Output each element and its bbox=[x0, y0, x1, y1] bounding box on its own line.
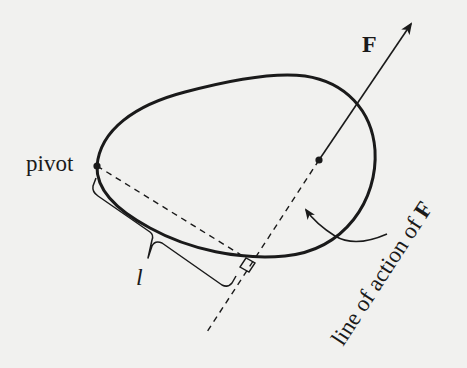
lever-arm-brace bbox=[93, 178, 236, 286]
pivot-dot bbox=[93, 162, 100, 169]
lever-arm-label: l bbox=[136, 264, 143, 290]
pivot-label: pivot bbox=[26, 151, 74, 176]
application-point-dot bbox=[315, 156, 322, 163]
torque-diagram: pivot F l line of action of F bbox=[0, 0, 467, 368]
force-label: F bbox=[362, 31, 377, 57]
line-of-action-dashed bbox=[205, 160, 319, 335]
perpendicular-dashed-line bbox=[97, 166, 246, 258]
line-of-action-label: line of action of F bbox=[326, 197, 437, 350]
rigid-body-outline bbox=[97, 75, 375, 257]
line-of-action-text: line of action of bbox=[326, 209, 430, 350]
right-angle-marker bbox=[240, 258, 255, 272]
